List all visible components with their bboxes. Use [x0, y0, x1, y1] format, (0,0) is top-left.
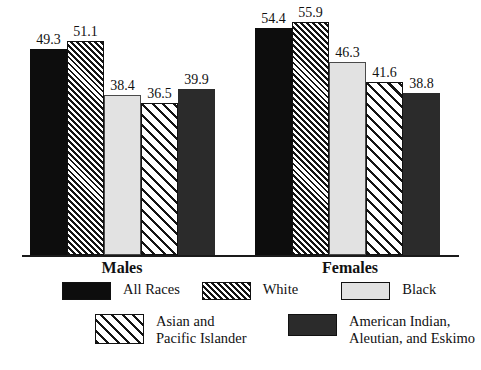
legend-row-2: Asian and Pacific Islander American Indi… — [0, 313, 481, 346]
bar-group-females: 54.4 55.9 46.3 41.6 38.8 — [255, 22, 440, 255]
bar-males-asian-pacific-islander[interactable] — [141, 103, 178, 255]
legend-swatch-all-races — [62, 282, 111, 300]
bar-value-label: 49.3 — [36, 33, 61, 47]
legend-label: American Indian, Aleutian, and Eskimo — [349, 313, 475, 346]
bar-value-label: 54.4 — [261, 12, 286, 26]
bar-value-label: 39.9 — [184, 73, 209, 87]
bar-females-all-races[interactable] — [255, 28, 292, 255]
legend-label: Asian and Pacific Islander — [156, 313, 247, 346]
axis-baseline — [22, 255, 459, 257]
bar-females-black[interactable] — [329, 62, 366, 255]
legend-swatch-american-indian — [288, 314, 337, 336]
bar-chart-figure: 49.3 51.1 38.4 36.5 39.9 — [0, 0, 481, 370]
bar-value-label: 36.5 — [147, 87, 172, 101]
legend-item-american-indian[interactable]: American Indian, Aleutian, and Eskimo — [288, 313, 481, 346]
legend-swatch-white — [202, 282, 251, 300]
bar-slot-females-american-indian: 38.8 — [403, 93, 440, 255]
legend-item-asian-pacific-islander[interactable]: Asian and Pacific Islander — [95, 313, 288, 346]
bar-slot-females-black: 46.3 — [329, 62, 366, 255]
bar-value-label: 38.4 — [110, 79, 135, 93]
bar-females-white[interactable] — [292, 22, 329, 255]
legend-swatch-black — [341, 282, 390, 300]
legend-item-white[interactable]: White — [202, 281, 342, 300]
group-label-males: Males — [62, 259, 182, 277]
bar-value-label: 38.8 — [409, 77, 434, 91]
bar-slot-males-black: 38.4 — [104, 95, 141, 255]
plot-area: 49.3 51.1 38.4 36.5 39.9 — [0, 0, 481, 258]
bar-slot-females-white: 55.9 — [292, 22, 329, 255]
legend-label: White — [263, 281, 298, 298]
legend-item-black[interactable]: Black — [341, 281, 481, 300]
bar-slot-females-all-races: 54.4 — [255, 28, 292, 255]
bar-males-black[interactable] — [104, 95, 141, 255]
legend-label: All Races — [123, 281, 180, 298]
bar-slot-females-asian-pacific-islander: 41.6 — [366, 82, 403, 255]
legend-item-all-races[interactable]: All Races — [62, 281, 202, 300]
bar-females-american-indian[interactable] — [403, 93, 440, 255]
bar-group-males: 49.3 51.1 38.4 36.5 39.9 — [30, 41, 215, 255]
bar-value-label: 46.3 — [335, 46, 360, 60]
chart-legend: All Races White Black Asian and Pacific … — [0, 281, 481, 346]
bar-females-asian-pacific-islander[interactable] — [366, 82, 403, 255]
bar-slot-males-all-races: 49.3 — [30, 49, 67, 255]
bar-value-label: 55.9 — [298, 6, 323, 20]
bar-value-label: 41.6 — [372, 66, 397, 80]
legend-label: Black — [402, 281, 436, 298]
bar-males-american-indian[interactable] — [178, 89, 215, 255]
legend-swatch-asian-pacific-islander — [95, 314, 144, 344]
bar-slot-males-american-indian: 39.9 — [178, 89, 215, 255]
group-label-females: Females — [290, 259, 410, 277]
bar-males-white[interactable] — [67, 41, 104, 255]
legend-row-1: All Races White Black — [0, 281, 481, 300]
bar-value-label: 51.1 — [73, 25, 98, 39]
bar-slot-males-white: 51.1 — [67, 41, 104, 255]
bar-slot-males-asian-pacific-islander: 36.5 — [141, 103, 178, 255]
bar-males-all-races[interactable] — [30, 49, 67, 255]
